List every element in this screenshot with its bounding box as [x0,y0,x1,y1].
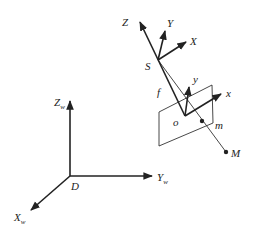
camera-origin-label: S [145,60,151,72]
projection-ray [158,60,226,152]
world-origin-label: D [70,180,79,192]
image-y-label: y [192,73,198,85]
world-frame: Zw Yw Xw D [13,96,168,226]
diagram-svg: Zw Yw Xw D Z Y X S f y x o m M [0,0,257,235]
camera-model-diagram: Zw Yw Xw D Z Y X S f y x o m M [0,0,257,235]
world-x-axis [31,176,70,210]
object-point-label: M [230,147,241,159]
camera-y-label: Y [167,17,175,29]
focal-length-label: f [157,86,162,98]
image-x-axis [185,94,221,116]
world-y-label: Yw [157,171,168,186]
camera-x-label: X [189,35,198,47]
world-z-label: Zw [54,96,65,111]
image-point-label: m [215,119,223,131]
image-origin-label: o [173,116,179,128]
image-point-dot [200,119,204,123]
image-x-label: x [225,87,231,99]
world-x-label: Xw [13,211,26,226]
camera-z-label: Z [122,16,129,28]
object-point-dot [224,150,228,154]
